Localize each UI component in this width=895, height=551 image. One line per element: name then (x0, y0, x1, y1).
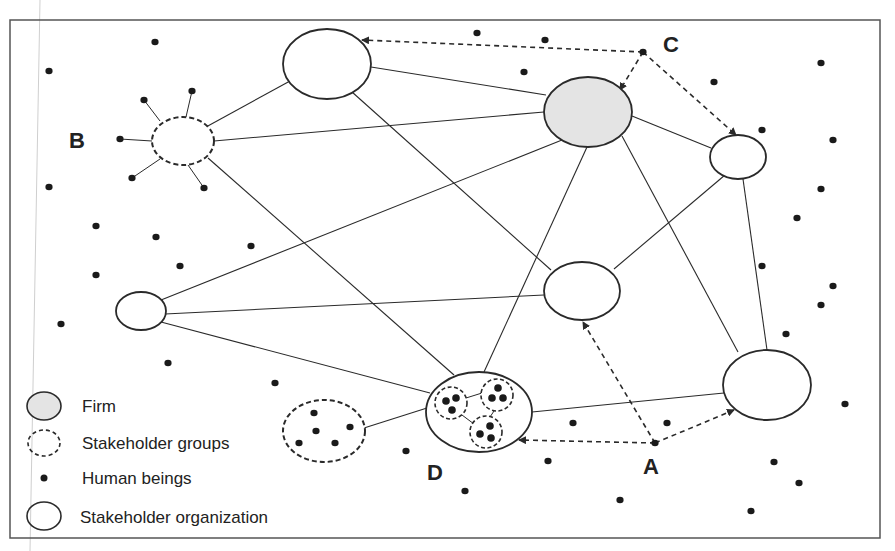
stakeholder-group-node-B (152, 117, 214, 165)
edge-line (165, 295, 544, 314)
human-being-dot (817, 302, 824, 308)
stakeholder-organization-node-top (283, 29, 371, 99)
human-being-dot (92, 223, 99, 229)
member-edge-line (144, 100, 160, 121)
stakeholder-organization-node-left (116, 292, 166, 330)
member-edge-line (120, 139, 152, 141)
human-being-dot (164, 360, 171, 366)
inner-group (470, 416, 502, 448)
inner-group (435, 387, 467, 419)
human-being-dot (152, 234, 159, 240)
human-being-dot (663, 420, 670, 426)
member-edge-line (186, 91, 192, 117)
human-being-dot (758, 263, 765, 269)
member-edge-line (188, 165, 204, 188)
human-being-dot (710, 79, 717, 85)
dashed-arrow (519, 440, 655, 443)
edge-line (632, 116, 711, 148)
human-being-icon (41, 475, 48, 482)
label-d: D (427, 460, 443, 485)
human-being-dot (45, 184, 52, 190)
human-being-dot (310, 410, 317, 416)
edge-line (614, 175, 725, 269)
human-being-dot (312, 428, 319, 434)
edge-line (364, 408, 427, 428)
legend-label-firm: Firm (82, 397, 116, 416)
edge-line (371, 67, 546, 95)
human-being-dot (116, 136, 123, 142)
legend-label-stakeholder-groups: Stakeholder groups (82, 434, 229, 453)
human-being-dot (829, 137, 836, 143)
human-being-dot (616, 497, 623, 503)
dashed-arrow (362, 40, 643, 52)
edge-line (161, 322, 430, 393)
human-being-dot (499, 394, 507, 402)
human-being-dot (402, 448, 409, 454)
human-being-dot (151, 39, 158, 45)
human-being-dot (747, 508, 754, 514)
label-c: C (663, 32, 679, 57)
legend-item-firm: Firm (27, 392, 116, 420)
human-being-dot (140, 97, 147, 103)
legend: Firm Stakeholder groups Human beings Sta… (27, 392, 268, 530)
edge-line (352, 92, 551, 270)
human-being-dot (569, 420, 576, 426)
human-being-dot (200, 185, 207, 191)
human-being-dot (486, 422, 494, 430)
human-being-dot (841, 401, 848, 407)
legend-item-stakeholder-organization: Stakeholder organization (27, 502, 268, 530)
diagram-frame (10, 20, 880, 538)
dashed-arrow (655, 410, 734, 443)
human-being-dot (494, 384, 502, 392)
human-being-dot (488, 394, 496, 402)
firm-icon (27, 392, 61, 420)
human-being-dot (331, 440, 338, 446)
human-being-dot (487, 434, 495, 442)
human-being-dot (271, 380, 278, 386)
human-being-dot (452, 394, 460, 402)
stakeholder-organization-node-middle (544, 262, 620, 320)
human-being-dot (817, 186, 824, 192)
human-being-dot (544, 458, 551, 464)
human-being-dot (448, 406, 456, 414)
human-being-dot (92, 272, 99, 278)
human-being-dot (795, 480, 802, 486)
human-being-dot (247, 243, 254, 249)
legend-label-stakeholder-organization: Stakeholder organization (80, 508, 268, 527)
stakeholder-group-node-lower-group (283, 400, 365, 462)
edge-line (484, 147, 587, 372)
edge-line (161, 140, 562, 300)
human-being-dot (176, 263, 183, 269)
dashed-arrow (620, 52, 643, 90)
legend-item-human-beings: Human beings (41, 469, 192, 488)
human-being-dot (541, 37, 548, 43)
label-b: B (69, 128, 85, 153)
human-being-dot (520, 69, 527, 75)
human-being-dot (128, 175, 135, 181)
human-being-dot (442, 397, 450, 405)
human-being-dot (758, 127, 765, 133)
human-being-dot (770, 459, 777, 465)
dashed-arrow (643, 52, 736, 135)
edge-line (532, 393, 724, 412)
human-being-dot (782, 331, 789, 337)
stakeholder-network-diagram: A B C D Firm Stakeholder groups Human be… (0, 0, 895, 551)
human-being-dot (817, 60, 824, 66)
firm-node-firm (544, 77, 632, 147)
human-being-dot (45, 68, 52, 74)
stakeholder-group-icon (28, 430, 60, 456)
human-being-dot (188, 88, 195, 94)
human-being-dot (476, 430, 484, 438)
member-edge-line (132, 159, 160, 178)
human-being-dot (346, 424, 353, 430)
human-being-dot (829, 283, 836, 289)
human-being-dot (639, 49, 646, 55)
human-being-dot (461, 488, 468, 494)
human-being-dot (793, 215, 800, 221)
human-being-dot (651, 440, 658, 446)
inner-group (481, 379, 513, 411)
human-being-dot (57, 321, 64, 327)
stakeholder-organization-icon (27, 502, 61, 530)
label-a: A (643, 454, 659, 479)
scan-artifact-line (30, 0, 40, 551)
